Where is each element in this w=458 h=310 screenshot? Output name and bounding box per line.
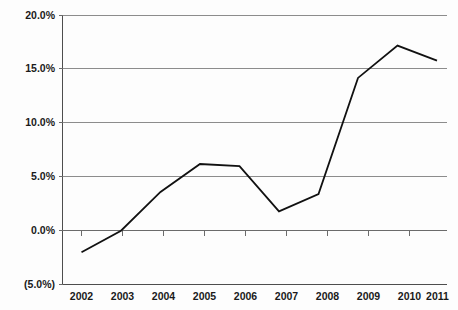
x-tick-label-2004: 2004 xyxy=(152,290,176,302)
x-tick-label-2003: 2003 xyxy=(111,290,135,302)
x-tick-label-2002: 2002 xyxy=(70,290,94,302)
x-tick-label-2006: 2006 xyxy=(234,290,258,302)
y-tick-label-10: 10.0% xyxy=(25,116,55,128)
x-tick-label-2011: 2011 xyxy=(426,290,449,302)
line-chart-container: 20.0% 15.0% 10.0% 5.0% 0.0% (5.0%) 2002 … xyxy=(0,0,458,310)
x-tick-label-2007: 2007 xyxy=(275,290,299,302)
x-tick-label-2010: 2010 xyxy=(398,290,422,302)
y-tick-label-20: 20.0% xyxy=(25,9,55,21)
y-tick-label-neg5: (5.0%) xyxy=(24,278,55,290)
x-tick-label-2008: 2008 xyxy=(316,290,340,302)
line-chart-canvas: 20.0% 15.0% 10.0% 5.0% 0.0% (5.0%) 2002 … xyxy=(0,0,458,310)
x-tick-label-2009: 2009 xyxy=(357,290,381,302)
chart-background xyxy=(0,0,458,310)
y-tick-label-5: 5.0% xyxy=(31,170,56,182)
y-tick-label-15: 15.0% xyxy=(25,62,55,74)
y-tick-label-0: 0.0% xyxy=(31,224,56,236)
x-tick-label-2005: 2005 xyxy=(193,290,217,302)
